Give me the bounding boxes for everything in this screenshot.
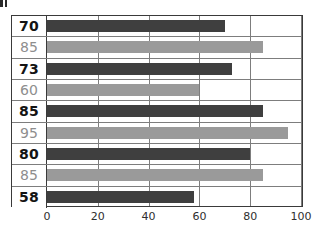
x-axis: 020406080100 (47, 207, 303, 227)
chart-plot-area: 708573608595808558 (11, 15, 303, 207)
bar (47, 20, 225, 32)
chart-row: 58 (12, 187, 302, 208)
row-plot-cell (47, 187, 302, 208)
bar (47, 63, 232, 75)
bar (47, 191, 194, 203)
row-value-label: 80 (12, 144, 47, 164)
row-value-label: 60 (12, 80, 47, 100)
row-plot-cell (47, 59, 302, 79)
chart-row: 73 (12, 59, 302, 80)
x-axis-tick-label: 0 (44, 210, 51, 223)
row-value-label: 85 (12, 165, 47, 185)
x-axis-tick-label: 60 (192, 210, 206, 223)
chart-row: 85 (12, 165, 302, 186)
bar (47, 41, 263, 53)
row-value-label: 73 (12, 59, 47, 79)
chart-row: 70 (12, 16, 302, 37)
row-plot-cell (47, 123, 302, 143)
chart-rows: 708573608595808558 (12, 16, 302, 208)
bar (47, 148, 250, 160)
bar (47, 105, 263, 117)
row-plot-cell (47, 144, 302, 164)
chart-row: 85 (12, 37, 302, 58)
row-value-label: 70 (12, 16, 47, 36)
chart-row: 60 (12, 80, 302, 101)
row-value-label: 85 (12, 37, 47, 57)
bar (47, 169, 263, 181)
chart-row: 95 (12, 123, 302, 144)
row-plot-cell (47, 165, 302, 185)
row-plot-cell (47, 37, 302, 57)
x-axis-tick-label: 20 (91, 210, 105, 223)
chart-row: 80 (12, 144, 302, 165)
horizontal-bar-chart: 708573608595808558 020406080100 (11, 15, 303, 207)
x-axis-tick-label: 40 (142, 210, 156, 223)
row-value-label: 85 (12, 101, 47, 121)
row-plot-cell (47, 101, 302, 121)
row-plot-cell (47, 16, 302, 36)
scan-artifact-glyph (0, 0, 7, 7)
x-axis-tick-label: 100 (291, 210, 312, 223)
bar (47, 127, 288, 139)
row-value-label: 58 (12, 187, 47, 208)
chart-row: 85 (12, 101, 302, 122)
bar (47, 84, 199, 96)
row-value-label: 95 (12, 123, 47, 143)
row-plot-cell (47, 80, 302, 100)
x-axis-tick-label: 80 (243, 210, 257, 223)
